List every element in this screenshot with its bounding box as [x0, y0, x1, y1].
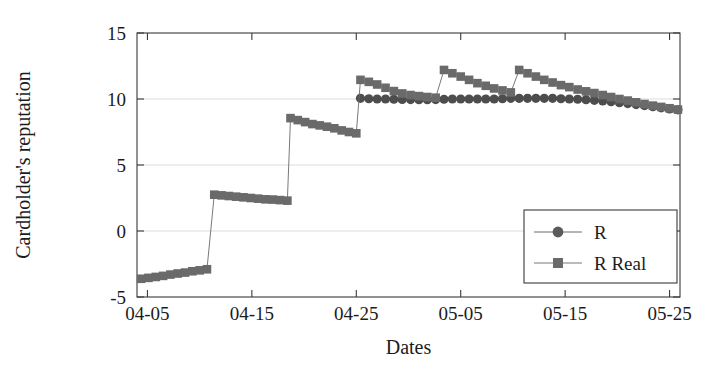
ytick-label: 10 — [107, 89, 126, 110]
marker-r — [373, 94, 382, 103]
y-axis-title: Cardholder's reputation — [12, 71, 35, 258]
marker-r — [531, 94, 540, 103]
marker-r — [573, 95, 582, 104]
marker-r — [473, 94, 482, 103]
marker-r-real — [203, 265, 212, 274]
marker-r-real — [590, 89, 599, 98]
xtick-label: 05-25 — [647, 303, 691, 324]
marker-r — [481, 94, 490, 103]
marker-r — [490, 94, 499, 103]
marker-r-real — [657, 103, 666, 112]
marker-r-real — [481, 82, 490, 91]
marker-r-real — [254, 194, 263, 203]
marker-r — [364, 94, 373, 103]
marker-r-real — [540, 76, 549, 85]
marker-r-real — [548, 78, 557, 87]
marker-r-real — [607, 93, 616, 102]
ytick-label: 5 — [117, 155, 127, 176]
marker-r — [540, 94, 549, 103]
reputation-line-chart: 04-0504-1504-2505-0505-1505-25-5051015 D… — [0, 0, 725, 376]
legend-marker-circle — [553, 227, 564, 238]
marker-r-real — [448, 69, 457, 78]
marker-r-real — [515, 66, 524, 75]
marker-r-real — [649, 101, 658, 110]
marker-r-real — [490, 84, 499, 93]
marker-r-real — [557, 81, 566, 90]
marker-r — [581, 95, 590, 104]
ytick-label: 15 — [107, 23, 126, 44]
marker-r-real — [356, 76, 365, 85]
marker-r — [456, 94, 465, 103]
ytick-label: 0 — [117, 221, 127, 242]
marker-r-real — [232, 192, 241, 201]
chart-figure: 04-0504-1504-2505-0505-1505-25-5051015 D… — [0, 0, 725, 376]
marker-r — [389, 95, 398, 104]
legend-layer: RR Real — [524, 210, 677, 283]
marker-r — [439, 95, 448, 104]
marker-r-real — [431, 93, 440, 102]
marker-r-real — [398, 89, 407, 98]
marker-r-real — [665, 104, 674, 113]
marker-r-real — [390, 87, 399, 96]
marker-r-real — [365, 78, 374, 87]
marker-r-real — [565, 83, 574, 92]
marker-r-real — [423, 93, 432, 102]
xtick-label: 05-05 — [439, 303, 483, 324]
marker-r-real — [373, 80, 382, 89]
marker-r-real — [498, 86, 507, 95]
marker-r-real — [283, 196, 292, 205]
marker-r-real — [582, 87, 591, 96]
marker-r-real — [456, 72, 465, 81]
marker-r-real — [640, 100, 649, 109]
marker-r — [565, 94, 574, 103]
marker-r-real — [623, 96, 632, 105]
marker-r — [548, 94, 557, 103]
marker-r-real — [465, 76, 474, 85]
marker-r — [556, 94, 565, 103]
legend-marker-square — [553, 258, 563, 268]
marker-r-real — [674, 105, 683, 114]
marker-r — [498, 94, 507, 103]
marker-r-real — [352, 129, 361, 138]
xtick-label: 04-25 — [334, 303, 378, 324]
marker-r — [515, 94, 524, 103]
marker-r — [381, 94, 390, 103]
marker-r — [448, 94, 457, 103]
legend-label-r-real: R Real — [594, 253, 646, 274]
marker-r-real — [598, 91, 607, 100]
marker-r-real — [523, 69, 532, 78]
xtick-label: 04-05 — [125, 303, 169, 324]
legend-label-r: R — [594, 222, 607, 243]
marker-r — [464, 94, 473, 103]
marker-r-real — [440, 66, 449, 75]
marker-r — [523, 94, 532, 103]
x-axis-title: Dates — [386, 336, 432, 358]
marker-r-real — [573, 85, 582, 94]
marker-r-real — [632, 98, 641, 107]
marker-r-real — [507, 88, 516, 97]
marker-r-real — [615, 95, 624, 104]
marker-r-real — [473, 79, 482, 88]
marker-r-real — [381, 83, 390, 92]
marker-r-real — [415, 92, 424, 101]
ytick-label: -5 — [110, 287, 126, 308]
xtick-label: 04-15 — [230, 303, 274, 324]
marker-r-real — [532, 72, 541, 81]
marker-r — [356, 94, 365, 103]
xtick-label: 05-15 — [543, 303, 587, 324]
marker-r-real — [406, 91, 415, 100]
